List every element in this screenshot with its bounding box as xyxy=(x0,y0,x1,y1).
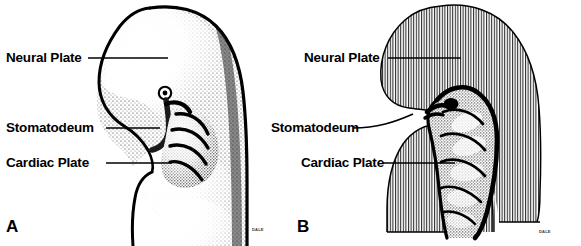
label-cardiac-plate-b: Cardiac Plate xyxy=(301,156,384,170)
panel-a: Neural Plate Stomatodeum Cardiac Plate A… xyxy=(0,0,290,246)
label-stomatodeum-b: Stomatodeum xyxy=(271,121,359,135)
optic-placode xyxy=(159,87,171,99)
artist-signature-a: DALE xyxy=(252,228,264,232)
leader-line-stomatodeum-b xyxy=(353,114,413,128)
embryology-figure: Neural Plate Stomatodeum Cardiac Plate A… xyxy=(0,0,581,246)
panel-b: Neural Plate Stomatodeum Cardiac Plate B… xyxy=(291,0,581,246)
panel-letter-b: B xyxy=(297,218,309,235)
artist-signature-b: DALE xyxy=(539,230,551,234)
label-neural-plate-b: Neural Plate xyxy=(304,51,380,65)
panel-letter-a: A xyxy=(6,218,18,235)
label-cardiac-plate-a: Cardiac Plate xyxy=(6,156,89,170)
label-stomatodeum-a: Stomatodeum xyxy=(6,121,94,135)
label-neural-plate-a: Neural Plate xyxy=(6,51,82,65)
